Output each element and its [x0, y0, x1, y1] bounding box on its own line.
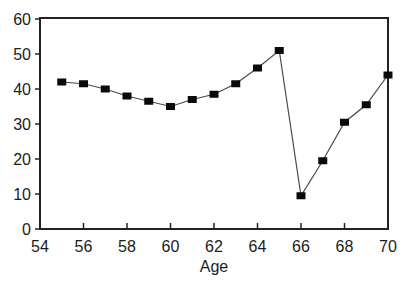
- x-axis-tick-label: 58: [118, 238, 136, 255]
- line-chart: 0102030405060545658606264666870Age: [0, 0, 408, 289]
- data-point-marker: [57, 79, 66, 86]
- data-point-marker: [188, 96, 197, 103]
- data-point-marker: [79, 80, 88, 87]
- data-point-marker: [384, 72, 393, 79]
- data-point-marker: [144, 98, 153, 105]
- data-point-marker: [340, 119, 349, 126]
- y-axis-tick-label: 40: [13, 81, 31, 98]
- data-point-marker: [297, 192, 306, 199]
- y-axis-tick-label: 20: [13, 151, 31, 168]
- x-axis-tick-label: 62: [205, 238, 223, 255]
- data-line: [62, 51, 388, 196]
- data-point-marker: [362, 101, 371, 108]
- data-point-marker: [210, 91, 219, 98]
- x-axis-tick-label: 64: [249, 238, 267, 255]
- plot-frame: [40, 18, 388, 229]
- x-axis-tick-label: 68: [336, 238, 354, 255]
- x-axis-tick-label: 60: [162, 238, 180, 255]
- data-point-marker: [123, 93, 132, 100]
- y-axis-tick-label: 0: [22, 221, 31, 238]
- y-axis-tick-label: 50: [13, 46, 31, 63]
- y-axis-tick-label: 30: [13, 116, 31, 133]
- x-axis-tick-label: 54: [31, 238, 49, 255]
- x-axis-tick-label: 66: [292, 238, 310, 255]
- x-axis-tick-label: 56: [75, 238, 93, 255]
- data-point-marker: [231, 80, 240, 87]
- data-point-marker: [253, 65, 262, 72]
- data-point-marker: [101, 86, 110, 93]
- data-point-marker: [166, 103, 175, 110]
- chart-canvas: 0102030405060545658606264666870Age: [0, 0, 408, 289]
- y-axis-tick-label: 60: [13, 11, 31, 28]
- y-axis-tick-label: 10: [13, 186, 31, 203]
- x-axis-tick-label: 70: [379, 238, 397, 255]
- data-point-marker: [275, 47, 284, 54]
- data-point-marker: [318, 157, 327, 164]
- x-axis-title: Age: [200, 258, 229, 275]
